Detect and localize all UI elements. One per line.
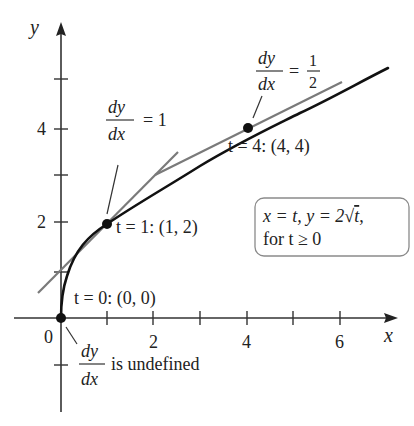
- leader-line-t1: [107, 165, 118, 214]
- rhs-numerator: 1: [309, 52, 317, 69]
- y-axis: [54, 22, 68, 412]
- point-label-t4: t = 4: (4, 4): [228, 136, 310, 157]
- point-label-t1: t = 1: (1, 2): [116, 217, 198, 238]
- slope-annotation-t0: dy dx is undefined: [79, 341, 199, 389]
- x-axis-arrow-icon: [384, 313, 398, 323]
- fraction-numerator: dy: [81, 341, 98, 361]
- y-tick-label-2: 2: [37, 212, 46, 232]
- point-t4: [243, 123, 253, 133]
- y-axis-label: y: [28, 16, 39, 39]
- x-axis-label: x: [383, 324, 393, 346]
- y-tick-label-4: 4: [37, 119, 46, 139]
- fraction-numerator: dy: [258, 48, 275, 68]
- point-t1: [102, 219, 112, 229]
- fraction-denominator: dx: [258, 74, 275, 94]
- x-tick-label-6: 6: [335, 332, 344, 352]
- fraction-numerator: dy: [108, 97, 125, 117]
- equation-box: x = t, y = 2√t, for t ≥ 0: [255, 198, 409, 256]
- origin-label: 0: [44, 327, 53, 347]
- fraction-denominator: dx: [81, 369, 98, 389]
- x-tick-label-4: 4: [242, 332, 251, 352]
- slope-annotation-t1: dy dx = 1: [106, 97, 167, 144]
- leader-line-t0: [66, 327, 77, 344]
- slope-value: is undefined: [111, 354, 199, 374]
- equation-line-1: x = t, y = 2√t,: [262, 206, 364, 226]
- y-axis-arrow-icon: [56, 22, 66, 36]
- point-t0: [56, 313, 66, 323]
- diagram-canvas: y x 0 2 4 6 2 4 t = 1: (1, 2) t = 4: (4,…: [0, 0, 414, 426]
- equation-line-2: for t ≥ 0: [263, 229, 321, 249]
- slope-annotation-t4: dy dx = 1 2: [256, 48, 320, 94]
- x-tick-label-2: 2: [149, 332, 158, 352]
- leader-line-t4: [253, 96, 262, 118]
- slope-value: = 1: [143, 110, 167, 130]
- fraction-denominator: dx: [108, 124, 125, 144]
- equals-sign: =: [289, 61, 299, 81]
- rhs-denominator: 2: [309, 74, 317, 91]
- point-label-t0: t = 0: (0, 0): [74, 288, 156, 309]
- x-axis: [14, 311, 398, 325]
